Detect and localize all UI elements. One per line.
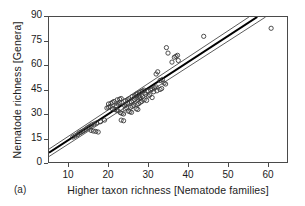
- x-tick-mark: [68, 163, 69, 167]
- y-tick-mark: [44, 41, 48, 42]
- upper-confidence-band: [49, 17, 249, 149]
- data-point: [164, 45, 168, 49]
- data-point: [202, 34, 206, 38]
- lower-confidence-band: [49, 17, 266, 157]
- y-tick-mark: [44, 65, 48, 66]
- x-tick-mark: [268, 163, 269, 167]
- y-tick-label: 90: [16, 9, 42, 20]
- x-tick-label: 50: [214, 169, 242, 180]
- x-tick-label: 10: [54, 169, 82, 180]
- y-tick-label: 60: [16, 58, 42, 69]
- data-point: [170, 60, 174, 64]
- data-point: [269, 26, 273, 30]
- x-tick-mark: [108, 163, 109, 167]
- x-tick-label: 40: [174, 169, 202, 180]
- x-axis-label: Higher taxon richness [Nematode families…: [48, 184, 288, 196]
- plot-area: [48, 16, 288, 163]
- y-tick-label: 45: [16, 83, 42, 94]
- y-tick-label: 0: [16, 156, 42, 167]
- data-point: [150, 95, 154, 99]
- x-tick-mark: [148, 163, 149, 167]
- x-tick-label: 60: [254, 169, 282, 180]
- y-tick-mark: [44, 114, 48, 115]
- x-tick-mark: [228, 163, 229, 167]
- y-tick-label: 75: [16, 34, 42, 45]
- x-tick-mark: [188, 163, 189, 167]
- y-tick-mark: [44, 90, 48, 91]
- panel-letter: (a): [14, 184, 26, 195]
- y-tick-mark: [44, 163, 48, 164]
- y-tick-label: 30: [16, 107, 42, 118]
- y-tick-mark: [44, 16, 48, 17]
- data-point: [166, 51, 170, 55]
- x-tick-label: 20: [94, 169, 122, 180]
- data-point: [176, 58, 180, 62]
- y-tick-mark: [44, 139, 48, 140]
- x-tick-label: 30: [134, 169, 162, 180]
- scatter-plot-figure: Nematode richness [Genera] Higher taxon …: [0, 0, 305, 206]
- y-tick-label: 15: [16, 132, 42, 143]
- plot-svg: [49, 17, 287, 162]
